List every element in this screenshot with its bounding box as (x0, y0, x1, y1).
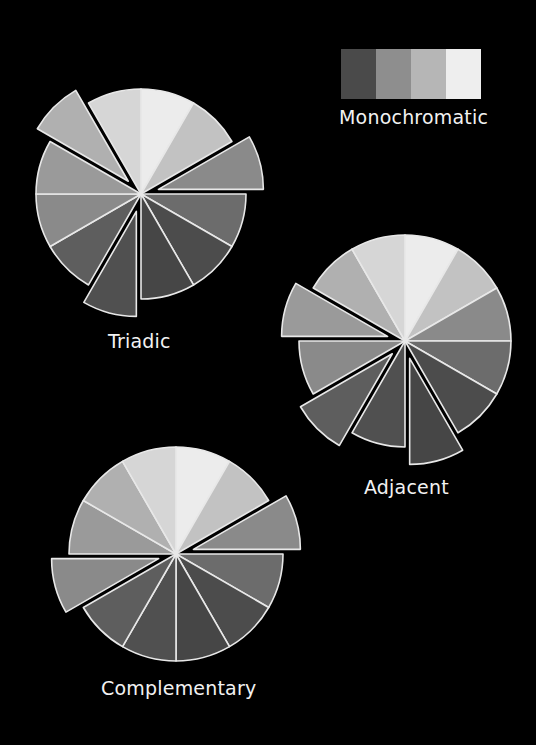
complementary-wheel (52, 447, 301, 661)
swatch-3 (411, 49, 446, 99)
triadic-wheel (36, 89, 263, 316)
complementary-label: Complementary (101, 677, 256, 699)
swatch-1 (341, 49, 376, 99)
adjacent-label: Adjacent (364, 476, 449, 498)
swatch-4 (446, 49, 481, 99)
adjacent-wheel (282, 235, 511, 464)
swatch-2 (376, 49, 411, 99)
monochromatic-swatch-strip (341, 49, 481, 99)
triadic-label: Triadic (108, 330, 171, 352)
monochromatic-label: Monochromatic (339, 106, 488, 128)
